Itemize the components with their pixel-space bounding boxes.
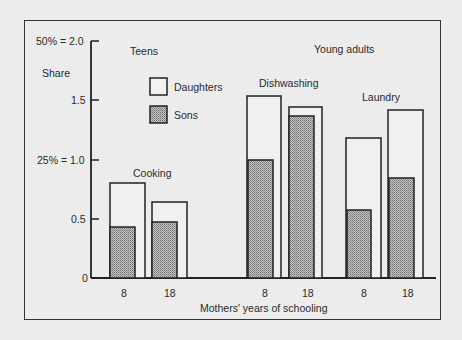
xtick-cooking-8: 8 — [121, 287, 127, 299]
xtick-dish-18: 18 — [302, 287, 314, 299]
legend-daughters-label: Daughters — [174, 81, 222, 93]
legend-daughters-swatch — [150, 78, 167, 95]
bar-cooking-18-sons — [152, 222, 177, 278]
bar-laundry-8-sons — [347, 210, 371, 278]
legend-sons-label: Sons — [174, 109, 198, 121]
y-axis-label: Share — [42, 67, 70, 79]
ytick-0.5: 0.5 — [71, 213, 86, 225]
header-teens: Teens — [130, 45, 158, 57]
group-label-laundry: Laundry — [362, 91, 400, 103]
bar-dish-8-sons — [248, 160, 273, 278]
ytick-2: 50% = 2.0 — [36, 35, 84, 47]
ytick-0: 0 — [82, 272, 88, 284]
xtick-laundry-8: 8 — [361, 287, 367, 299]
x-axis-label: Mothers' years of schooling — [200, 302, 327, 314]
ytick-1: 25% = 1.0 — [37, 154, 85, 166]
ytick-1.5: 1.5 — [71, 94, 86, 106]
group-label-cooking: Cooking — [133, 167, 172, 179]
chart-plot — [0, 0, 462, 340]
group-label-dishwashing: Dishwashing — [259, 77, 319, 89]
legend-sons-swatch — [150, 106, 167, 123]
bar-cooking-8-sons — [110, 227, 135, 278]
bar-dish-18-sons — [289, 116, 314, 278]
xtick-laundry-18: 18 — [402, 287, 414, 299]
bar-laundry-18-sons — [389, 178, 414, 278]
y-ticks — [91, 41, 99, 219]
xtick-cooking-18: 18 — [164, 287, 176, 299]
xtick-dish-8: 8 — [262, 287, 268, 299]
header-young-adults: Young adults — [314, 43, 374, 55]
